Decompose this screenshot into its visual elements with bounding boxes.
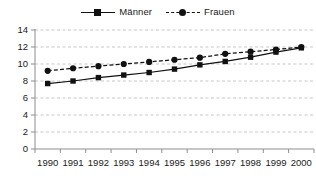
chart-legend: Männer Frauen: [0, 4, 316, 20]
x-axis-tick-label: 1998: [240, 157, 261, 168]
data-point-manner: [197, 62, 202, 67]
data-point-frauen: [121, 61, 127, 67]
data-point-frauen: [247, 49, 253, 55]
legend-dashed-circle-marker-icon: [166, 7, 200, 18]
y-axis-tick-label: 6: [23, 92, 28, 103]
x-axis-tick-label: 1993: [113, 157, 134, 168]
x-axis-tick-label: 1997: [215, 157, 236, 168]
x-axis-tick-label: 1999: [265, 157, 286, 168]
legend-label-maenner: Männer: [119, 7, 152, 17]
x-axis-tick-label: 1994: [139, 157, 160, 168]
data-point-manner: [146, 70, 151, 75]
y-axis-tick-label: 12: [17, 41, 28, 52]
plot-canvas: 02468101214 1990199119921993199419951996…: [0, 22, 316, 183]
data-point-frauen: [273, 46, 279, 52]
line-chart: Männer Frauen 02468101214 19901991199219…: [0, 0, 316, 183]
data-point-frauen: [70, 65, 76, 71]
data-point-manner: [223, 59, 228, 64]
x-axis-tick-label: 1991: [62, 157, 83, 168]
legend-item-maenner[interactable]: Männer: [81, 7, 152, 18]
y-axis-tick-label: 10: [17, 58, 28, 69]
x-axis-tick-label: 1990: [37, 157, 58, 168]
x-axis-tick-label: 1996: [189, 157, 210, 168]
data-point-frauen: [197, 55, 203, 61]
y-axis-tick-label: 14: [17, 24, 28, 35]
x-axis-tick-label: 2000: [291, 157, 312, 168]
data-series: [45, 44, 305, 86]
y-axis: 02468101214: [17, 24, 35, 154]
data-point-manner: [70, 78, 75, 83]
legend-label-frauen: Frauen: [204, 7, 235, 17]
data-point-manner: [172, 66, 177, 71]
data-point-frauen: [45, 68, 51, 74]
data-point-frauen: [298, 44, 304, 50]
data-point-frauen: [171, 57, 177, 63]
legend-line-square-marker-icon: [81, 7, 115, 18]
data-point-manner: [248, 55, 253, 60]
data-point-frauen: [146, 59, 152, 65]
plot-area: 02468101214 1990199119921993199419951996…: [0, 22, 316, 183]
data-point-manner: [121, 72, 126, 77]
y-axis-tick-label: 8: [23, 75, 28, 86]
x-axis: 1990199119921993199419951996199719981999…: [35, 149, 314, 168]
data-point-manner: [96, 75, 101, 80]
legend-item-frauen[interactable]: Frauen: [166, 7, 235, 18]
y-axis-tick-label: 0: [23, 143, 28, 154]
series-line-manner: [48, 48, 302, 84]
data-point-frauen: [95, 63, 101, 69]
x-axis-tick-label: 1992: [88, 157, 109, 168]
y-axis-tick-label: 2: [23, 126, 28, 137]
x-axis-tick-label: 1995: [164, 157, 185, 168]
y-axis-tick-label: 4: [23, 109, 28, 120]
data-point-frauen: [222, 51, 228, 57]
data-point-manner: [45, 81, 50, 86]
